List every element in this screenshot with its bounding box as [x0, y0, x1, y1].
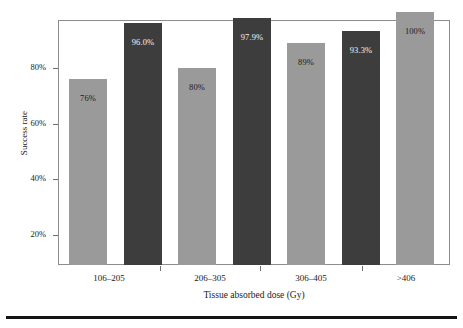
y-axis-tick	[53, 235, 58, 236]
x-axis-category-label: 306–405	[266, 273, 356, 284]
x-axis-category-label: >406	[361, 273, 451, 284]
x-axis-tick	[160, 266, 161, 271]
y-axis-tick-label: 20%	[16, 230, 46, 239]
x-axis-tick	[260, 266, 261, 271]
y-axis-tick	[53, 124, 58, 125]
x-axis-tick	[362, 266, 363, 271]
y-axis-tick	[53, 68, 58, 69]
y-axis-tick	[53, 179, 58, 180]
plot-area	[58, 20, 450, 265]
y-axis-label: Success rate	[19, 93, 29, 173]
y-axis-tick-label: 60%	[16, 119, 46, 128]
y-axis-tick-label: 40%	[16, 174, 46, 183]
x-axis-category-label: 206–305	[165, 273, 255, 284]
x-axis-category-label: 106–205	[64, 273, 154, 284]
y-axis-tick-label: 80%	[16, 63, 46, 72]
x-axis-label: Tissue absorbed dose (Gy)	[58, 290, 450, 300]
footer-rule	[6, 316, 457, 319]
figure-container: Success rate 20%40%60%80%106–205206–3053…	[0, 0, 463, 328]
